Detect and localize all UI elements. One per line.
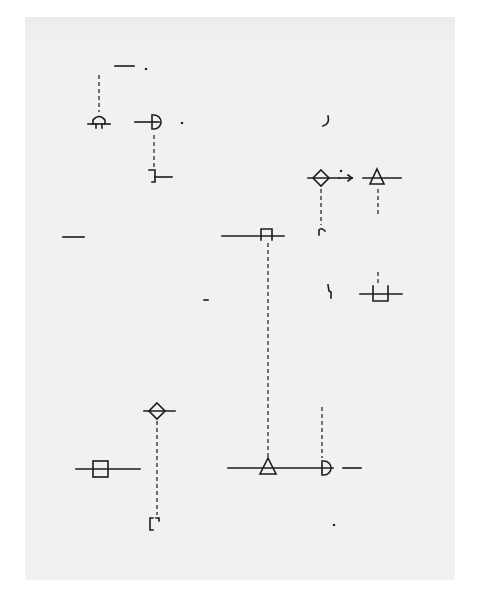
gate-sym-symbol [222, 229, 284, 240]
dot-top-mark [145, 68, 148, 71]
diamond-b-symbol [144, 403, 175, 419]
diamond-a-symbol [308, 170, 352, 186]
triangle-b-symbol [260, 458, 276, 474]
half-circle-a-symbol [135, 115, 161, 129]
curl-b-mark [328, 285, 331, 298]
bracket-sym-symbol [150, 518, 159, 530]
arc-a-mark [319, 229, 325, 235]
dot-a-mark [181, 122, 184, 125]
curl-a-mark [323, 116, 328, 126]
step-sym-symbol [149, 170, 172, 182]
symbol-diagram [0, 0, 480, 604]
cup-sym-symbol [360, 286, 402, 301]
fork-arch-symbol [88, 117, 110, 129]
square-sym-symbol [76, 461, 140, 477]
dot-b-mark [340, 170, 343, 173]
triangle-a-symbol [363, 169, 401, 184]
dot-bottom-mark [333, 524, 336, 527]
